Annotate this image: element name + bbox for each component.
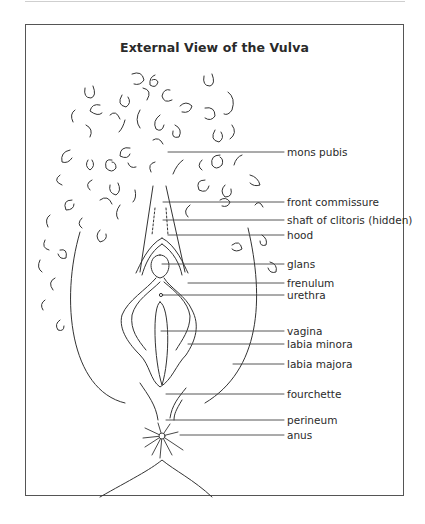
fourchette-lines xyxy=(140,383,186,420)
anatomy-diagram xyxy=(0,0,425,524)
front-commissure-lines xyxy=(140,186,185,272)
buttocks-lines xyxy=(100,460,212,497)
label-anus: anus xyxy=(287,429,312,441)
label-front-commissure: front commissure xyxy=(287,196,379,208)
label-urethra: urethra xyxy=(287,289,326,301)
label-vagina: vagina xyxy=(287,325,322,337)
clitoris-shaft-dotted xyxy=(152,208,168,235)
label-hood: hood xyxy=(287,229,313,241)
label-labia-minora: labia minora xyxy=(287,338,353,350)
label-labia-majora: labia majora xyxy=(287,358,352,370)
glans-outline xyxy=(151,255,169,278)
label-fourchette: fourchette xyxy=(287,388,341,400)
labia-majora-right-line xyxy=(205,228,257,403)
urethra-opening xyxy=(159,293,162,296)
label-glans: glans xyxy=(287,258,315,270)
label-frenulum: frenulum xyxy=(287,277,334,289)
label-perineum: perineum xyxy=(287,414,337,426)
anus-star xyxy=(143,423,183,458)
label-mons-pubis: mons pubis xyxy=(287,146,348,158)
label-shaft-of-clitoris: shaft of clitoris (hidden) xyxy=(287,214,412,226)
labia-majora-left-line xyxy=(70,232,125,403)
vaginal-opening xyxy=(155,302,168,385)
